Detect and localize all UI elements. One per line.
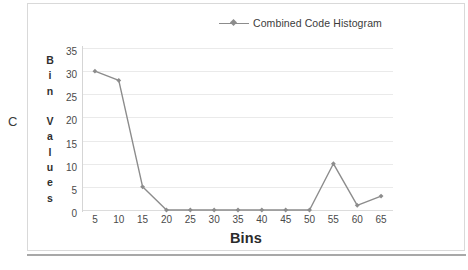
data-point-marker <box>379 194 384 199</box>
x-axis-tick-label: 50 <box>304 214 315 225</box>
x-axis-tick-label: 35 <box>232 214 243 225</box>
y-axis-tick-label: 10 <box>57 161 77 172</box>
diamond-marker-icon <box>230 19 237 26</box>
y-title-letter: l <box>49 145 52 160</box>
chart-frame: Combined Code Histogram B i n V a l u e … <box>27 3 465 251</box>
data-point-marker <box>307 208 312 213</box>
series-line-chart <box>83 48 393 210</box>
y-axis-tick-label: 35 <box>57 46 77 57</box>
data-point-marker <box>116 78 121 83</box>
data-point-marker <box>212 208 217 213</box>
legend-series-label: Combined Code Histogram <box>253 17 382 29</box>
data-point-marker <box>259 208 264 213</box>
x-axis-tick-label: 20 <box>161 214 172 225</box>
x-axis-title: Bins <box>27 230 465 246</box>
data-point-marker <box>188 208 193 213</box>
y-axis-tick-label: 25 <box>57 92 77 103</box>
y-axis-tick-label: 15 <box>57 138 77 149</box>
y-axis-tick-label: 20 <box>57 115 77 126</box>
x-axis-tick-label: 10 <box>113 214 124 225</box>
x-axis-tick-label: 55 <box>328 214 339 225</box>
plot-area <box>83 48 393 210</box>
y-axis-tick-label: 0 <box>57 208 77 219</box>
x-axis-tick-label: 15 <box>137 214 148 225</box>
y-title-letter: B <box>46 53 54 68</box>
y-title-letter: u <box>47 160 53 175</box>
y-title-letter: i <box>49 68 52 83</box>
data-point-marker <box>93 69 98 74</box>
x-axis-tick-label: 5 <box>92 214 98 225</box>
data-point-marker <box>283 208 288 213</box>
data-point-marker <box>236 208 241 213</box>
x-axis-tick-label: 25 <box>185 214 196 225</box>
figure-marker-letter: C <box>8 114 17 129</box>
chart-legend: Combined Code Histogram <box>219 16 382 30</box>
bottom-rule <box>27 254 466 256</box>
x-axis-tick-label: 45 <box>280 214 291 225</box>
x-axis-tick-labels: 5101520253035404550556065 <box>83 214 393 228</box>
series-line <box>95 71 381 210</box>
y-axis-tick-label: 30 <box>57 69 77 80</box>
y-axis-tick-labels: 05101520253035 <box>55 48 77 210</box>
y-title-letter: V <box>46 114 53 129</box>
y-title-letter: a <box>47 129 53 144</box>
y-title-letter: n <box>47 84 53 99</box>
x-axis-tick-label: 65 <box>376 214 387 225</box>
y-axis-tick-label: 5 <box>57 184 77 195</box>
y-title-letter: s <box>47 191 53 206</box>
x-axis-tick-label: 40 <box>256 214 267 225</box>
x-axis-tick-label: 30 <box>209 214 220 225</box>
legend-series-swatch <box>219 18 249 28</box>
x-axis-tick-label: 60 <box>352 214 363 225</box>
y-title-letter: e <box>47 175 53 190</box>
